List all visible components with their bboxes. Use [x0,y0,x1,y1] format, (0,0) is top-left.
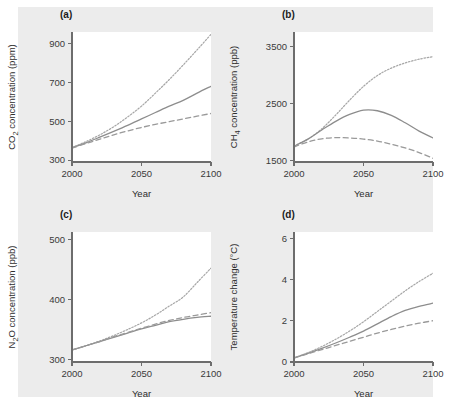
x-tick-label: 2050 [131,168,152,179]
y-tick-label: 3500 [266,41,287,52]
y-tick-label: 2 [282,315,287,326]
y-axis-title-pre: Temperature change ( [228,257,239,351]
y-tick-label: 300 [49,354,65,365]
y-tick-label: 2500 [266,98,287,109]
y-tick-label: 700 [49,77,65,88]
y-axis-title: N2O concentration (ppb) [6,246,20,349]
plot-area-background [294,232,433,362]
figure-root: (a)300500700900200020502100YearCO2 conce… [0,0,451,413]
y-tick-label: 900 [49,38,65,49]
x-axis-title: Year [354,188,373,199]
x-tick-label: 2100 [422,168,443,179]
panel-grid: (a)300500700900200020502100YearCO2 conce… [0,0,451,413]
y-axis-title-post: concentration (ppb) [228,46,239,131]
y-axis-title: CO2 concentration (ppm) [6,44,20,150]
panel-a-co2: (a)300500700900200020502100YearCO2 conce… [0,0,225,206]
panel-d-plot: (d)0246200020502100YearTemperature chang… [222,200,447,406]
y-axis-title-pre: CO [6,136,17,150]
y-tick-label: 400 [49,294,65,305]
panel-b-plot: (b)150025003500200020502100YearCH4 conce… [222,0,447,206]
y-axis-title: CH4 concentration (ppb) [228,46,242,148]
x-tick-label: 2000 [61,368,82,379]
panel-b-ch4: (b)150025003500200020502100YearCH4 conce… [222,0,447,206]
y-tick-label: 0 [282,356,287,367]
x-tick-label: 2100 [200,368,221,379]
x-tick-label: 2000 [283,368,304,379]
panel-c-n2o: (c)300400500200020502100YearN2O concentr… [0,200,225,406]
y-tick-label: 500 [49,116,65,127]
x-tick-label: 2100 [422,368,443,379]
plot-area-background [294,32,433,162]
x-tick-label: 2000 [283,168,304,179]
panel-label-b: (b) [282,9,295,20]
y-tick-label: 6 [282,233,287,244]
panel-label-d: (d) [282,209,295,220]
panel-label-c: (c) [60,209,72,220]
x-tick-label: 2050 [131,368,152,379]
panel-label-a: (a) [60,9,72,20]
x-axis-title: Year [132,188,151,199]
x-tick-label: 2050 [353,168,374,179]
y-axis-title-post: O concentration (ppb) [6,246,17,338]
y-tick-label: 300 [49,154,65,165]
x-axis-title: Year [132,388,151,399]
y-axis-title-post: concentration (ppm) [6,44,17,131]
panel-c-plot: (c)300400500200020502100YearN2O concentr… [0,200,225,406]
y-axis-title-post: °C) [228,244,239,258]
y-axis-title: Temperature change (°C) [228,244,239,351]
plot-area-background [72,232,211,362]
x-axis-title: Year [354,388,373,399]
panel-a-plot: (a)300500700900200020502100YearCO2 conce… [0,0,225,206]
y-tick-label: 4 [282,274,287,285]
y-axis-title-pre: CH [228,134,239,148]
x-tick-label: 2000 [61,168,82,179]
x-tick-label: 2050 [353,368,374,379]
y-tick-label: 1500 [266,155,287,166]
x-tick-label: 2100 [200,168,221,179]
y-tick-label: 500 [49,234,65,245]
panel-d-temperature: (d)0246200020502100YearTemperature chang… [222,200,447,406]
